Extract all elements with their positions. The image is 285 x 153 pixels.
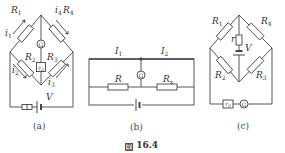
resistor-series-a [22, 105, 32, 110]
galvanometer-b-glyph: G [139, 72, 144, 79]
battery-a [37, 101, 41, 113]
panel-b-caption: (b) [130, 123, 143, 132]
battery-c [233, 51, 245, 55]
label-r2-a: R2 [25, 53, 36, 63]
label-rx-b: Rx [163, 75, 173, 85]
panel-c-caption: (c) [237, 122, 249, 131]
figure-caption: 图 16.4 [125, 141, 158, 151]
label-r-b: R [115, 75, 122, 84]
label-v-a: V [46, 93, 53, 102]
panel-a-circuit [10, 15, 73, 113]
label-r1-a: R1 [11, 6, 22, 16]
label-v-c: V [245, 44, 252, 53]
panel-a-caption: (a) [33, 122, 45, 131]
galvanometer-a-glyph: G [39, 41, 44, 48]
label-i1-a: i1 [5, 29, 12, 39]
label-i3-a: i3 [48, 78, 55, 88]
label-r-c: r [231, 35, 235, 44]
figure-number: 16.4 [136, 140, 158, 150]
resistor-r-b [108, 84, 128, 90]
panel-b-circuit [89, 58, 194, 111]
label-r4-a: R4 [63, 6, 74, 16]
label-r1-c: R1 [212, 17, 223, 27]
battery-b [134, 99, 142, 111]
label-i1-b: I1 [115, 47, 122, 57]
label-r2-c: R2 [215, 71, 226, 81]
label-i2-b: I2 [161, 47, 168, 57]
label-r4-c: R4 [261, 17, 272, 27]
label-r3-a: R3 [47, 53, 58, 63]
label-i4-a: i4 [55, 6, 62, 16]
figure-symbol: 图 [125, 143, 133, 151]
resistor-r-c [236, 35, 242, 45]
label-r3-c: R3 [256, 71, 267, 81]
label-i2-a: i2 [12, 66, 19, 76]
panel-c-circuit [210, 15, 272, 108]
resistor-r1-a [17, 25, 33, 43]
galvanometer-c-glyph: G [242, 101, 247, 108]
